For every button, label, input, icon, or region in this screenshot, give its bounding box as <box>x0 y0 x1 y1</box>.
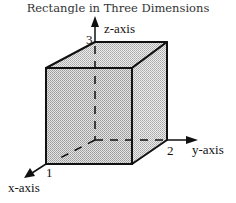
x-axis-line <box>32 164 46 173</box>
x-axis-label: x-axis <box>8 180 40 195</box>
box-front-face <box>46 68 132 164</box>
y-axis-label: y-axis <box>192 142 224 157</box>
x-tick-label: 1 <box>46 165 53 180</box>
diagram-title: Rectangle in Three Dimensions <box>27 1 210 15</box>
z-tick-label: 3 <box>86 32 93 47</box>
z-axis-arrow-icon <box>91 16 99 27</box>
z-axis-label: z-axis <box>104 21 135 36</box>
diagram-canvas: Rectangle in Three Dimensions 3 z-axis 2… <box>0 0 236 203</box>
y-tick-label: 2 <box>167 143 174 158</box>
